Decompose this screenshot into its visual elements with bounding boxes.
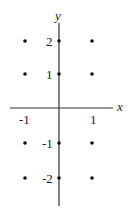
data-point (57, 141, 61, 145)
data-point (23, 39, 27, 43)
y-tick-label-neg1: -1 (42, 136, 53, 151)
data-point (23, 176, 27, 180)
y-tick-label-2: 2 (46, 34, 53, 49)
x-tick-label-neg1: -1 (19, 112, 30, 127)
y-tick-label-1: 1 (46, 67, 53, 82)
data-point (90, 141, 94, 145)
data-point (23, 72, 27, 76)
data-point (57, 72, 61, 76)
x-tick-label-1: 1 (90, 112, 97, 127)
y-axis-label: y (53, 8, 61, 23)
data-point (57, 39, 61, 43)
data-point (90, 39, 94, 43)
y-tick-label-neg2: -2 (42, 171, 53, 186)
data-point (90, 176, 94, 180)
data-point (90, 72, 94, 76)
x-axis-label: x (116, 99, 123, 114)
data-point (23, 141, 27, 145)
data-point (57, 176, 61, 180)
coordinate-plot: x y -1 1 2 1 -1 -2 (0, 0, 134, 211)
